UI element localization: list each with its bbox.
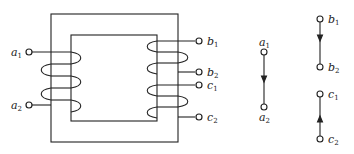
eq-label-b1: b1 bbox=[328, 13, 340, 27]
label-c2: c2 bbox=[207, 111, 218, 125]
winding-c bbox=[147, 85, 195, 118]
label-a2: a2 bbox=[11, 99, 22, 113]
eq-label-c1: c1 bbox=[328, 88, 339, 102]
core-outer bbox=[51, 14, 178, 142]
equivalent-c bbox=[317, 91, 323, 142]
eq-label-a1: a1 bbox=[259, 36, 270, 50]
eq-label-c2: c2 bbox=[328, 133, 339, 147]
winding-a bbox=[32, 52, 81, 112]
label-a1: a1 bbox=[11, 46, 22, 60]
core-inner bbox=[71, 35, 157, 121]
transformer-diagram: a1 a2 b1 b2 c1 c2 a1 a2 b1 b2 c1 c2 bbox=[0, 0, 354, 154]
equivalent-a bbox=[261, 49, 267, 110]
terminal-c2 bbox=[196, 114, 202, 120]
terminal-a1 bbox=[26, 49, 32, 55]
equivalent-b bbox=[317, 16, 323, 70]
label-b1: b1 bbox=[207, 35, 219, 49]
terminal-b1 bbox=[196, 38, 202, 44]
eq-label-a2: a2 bbox=[259, 111, 270, 125]
winding-b bbox=[147, 41, 195, 74]
eq-label-b2: b2 bbox=[328, 61, 340, 75]
terminal-c1 bbox=[196, 82, 202, 88]
label-c1: c1 bbox=[207, 79, 218, 93]
terminal-b2 bbox=[196, 69, 202, 75]
terminal-a2 bbox=[26, 102, 32, 108]
label-b2: b2 bbox=[207, 66, 219, 80]
